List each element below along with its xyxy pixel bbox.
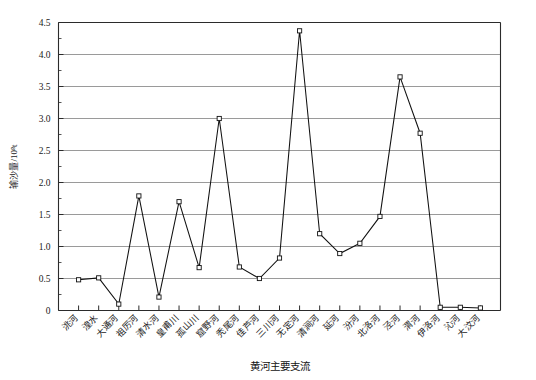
- y-tick-label: 4.5: [39, 18, 51, 28]
- data-point-marker: [217, 116, 221, 120]
- sediment-load-line-chart: 00.51.01.52.02.53.03.54.04.5 洮河湟水大通河祖厉河清…: [0, 0, 536, 380]
- data-point-marker: [257, 276, 261, 280]
- y-axis-title: 输沙量/10⁸t: [8, 144, 19, 189]
- y-tick-label: 1.0: [39, 242, 51, 252]
- y-tick-label: 1.5: [39, 210, 51, 220]
- data-point-marker: [458, 305, 462, 309]
- data-point-marker: [358, 241, 362, 245]
- data-point-marker: [177, 200, 181, 204]
- data-point-marker: [237, 265, 241, 269]
- data-point-marker: [418, 131, 422, 135]
- x-axis-ticks: [79, 306, 481, 311]
- y-tick-label: 3.0: [39, 114, 51, 124]
- y-tick-label: 2.0: [39, 178, 51, 188]
- data-point-marker: [277, 256, 281, 260]
- data-point-marker: [76, 278, 80, 282]
- x-axis-title: 黄河主要支流: [250, 360, 311, 372]
- data-point-marker: [438, 305, 442, 309]
- data-point-marker: [478, 306, 482, 310]
- y-tick-label: 0.5: [39, 274, 51, 284]
- data-point-marker: [97, 276, 101, 280]
- data-point-marker: [297, 29, 301, 33]
- data-point-marker: [338, 251, 342, 255]
- data-point-marker: [117, 302, 121, 306]
- data-point-marker: [398, 75, 402, 79]
- y-tick-label: 0: [46, 306, 51, 316]
- chart-container: 00.51.01.52.02.53.03.54.04.5 洮河湟水大通河祖厉河清…: [0, 0, 536, 380]
- y-tick-label: 2.5: [39, 146, 51, 156]
- y-tick-label: 4.0: [39, 50, 51, 60]
- data-point-marker: [318, 232, 322, 236]
- data-point-marker: [157, 295, 161, 299]
- data-point-marker: [197, 266, 201, 270]
- data-point-marker: [378, 214, 382, 218]
- y-tick-label: 3.5: [39, 82, 51, 92]
- data-point-marker: [137, 194, 141, 198]
